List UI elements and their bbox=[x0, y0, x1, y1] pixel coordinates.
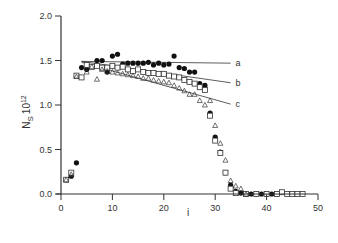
data-point bbox=[94, 58, 99, 63]
data-point bbox=[172, 83, 177, 88]
data-point bbox=[238, 186, 243, 191]
data-point bbox=[151, 77, 156, 82]
ticks bbox=[55, 16, 318, 200]
data-point bbox=[156, 71, 161, 76]
data-point bbox=[161, 71, 166, 76]
tick-labels: 010203040500.00.51.01.52.0 bbox=[39, 11, 323, 213]
data-point bbox=[171, 53, 176, 58]
chart: abc 010203040500.00.51.01.52.0 i NS1012 bbox=[0, 0, 338, 243]
data-point bbox=[228, 186, 233, 191]
data-point bbox=[115, 65, 120, 70]
data-point bbox=[151, 70, 156, 75]
data-point bbox=[223, 158, 228, 163]
data-point bbox=[192, 81, 197, 86]
line-labels: abc bbox=[236, 58, 241, 109]
data-point bbox=[177, 65, 182, 70]
data-point bbox=[192, 69, 197, 74]
data-point bbox=[100, 58, 105, 63]
data-point bbox=[182, 66, 187, 71]
data-points bbox=[64, 52, 305, 197]
data-point bbox=[166, 61, 171, 66]
data-point bbox=[151, 62, 156, 67]
data-point bbox=[233, 191, 238, 196]
data-point bbox=[115, 52, 120, 57]
data-point bbox=[125, 61, 130, 66]
x-tick-label: 40 bbox=[262, 203, 272, 213]
y-axis-label: NS1012 bbox=[20, 95, 35, 129]
data-point bbox=[161, 79, 166, 84]
data-point bbox=[202, 102, 207, 107]
y-tick-label: 2.0 bbox=[39, 11, 52, 21]
data-point bbox=[146, 60, 151, 65]
x-axis-label: i bbox=[187, 207, 189, 218]
x-tick-label: 20 bbox=[159, 203, 169, 213]
data-point bbox=[208, 113, 213, 118]
data-point bbox=[136, 67, 141, 72]
data-point bbox=[110, 53, 115, 58]
y-label-exp: 12 bbox=[20, 95, 27, 103]
data-point bbox=[202, 87, 207, 92]
data-point bbox=[94, 77, 99, 82]
series-open-square bbox=[64, 62, 305, 196]
series-open-triangle bbox=[64, 64, 249, 196]
axes bbox=[56, 16, 318, 194]
data-point bbox=[223, 170, 228, 175]
data-point bbox=[218, 151, 223, 156]
fit-line-label-c: c bbox=[236, 99, 241, 109]
data-point bbox=[156, 78, 161, 83]
x-tick-label: 10 bbox=[107, 203, 117, 213]
data-point bbox=[141, 70, 146, 75]
data-point bbox=[166, 73, 171, 78]
y-tick-label: 1.0 bbox=[39, 100, 52, 110]
data-point bbox=[74, 160, 79, 165]
data-point bbox=[172, 74, 177, 79]
data-point bbox=[146, 76, 151, 81]
data-point bbox=[136, 61, 141, 66]
data-point bbox=[146, 70, 151, 75]
y-label-sub: S bbox=[26, 116, 35, 121]
series-filled-circle bbox=[69, 52, 280, 197]
data-point bbox=[233, 183, 238, 188]
data-point bbox=[187, 79, 192, 84]
data-point bbox=[130, 61, 135, 66]
data-point bbox=[213, 123, 218, 128]
x-tick-label: 50 bbox=[313, 203, 323, 213]
data-point bbox=[213, 138, 218, 143]
data-point bbox=[156, 61, 161, 66]
fit-line-label-b: b bbox=[236, 78, 241, 88]
y-tick-label: 0.0 bbox=[39, 189, 52, 199]
y-tick-label: 0.5 bbox=[39, 145, 52, 155]
data-point bbox=[166, 80, 171, 85]
data-point bbox=[105, 65, 110, 70]
fit-line-label-a: a bbox=[236, 58, 241, 68]
y-label-ten: 10 bbox=[21, 103, 32, 115]
data-point bbox=[187, 69, 192, 74]
data-point bbox=[218, 141, 223, 146]
data-point bbox=[94, 63, 99, 68]
data-point bbox=[182, 78, 187, 83]
data-point bbox=[79, 75, 84, 80]
svg-text:NS1012: NS1012 bbox=[20, 95, 35, 129]
x-tick-label: 0 bbox=[58, 203, 63, 213]
x-tick-label: 30 bbox=[210, 203, 220, 213]
data-point bbox=[228, 178, 233, 183]
data-point bbox=[238, 191, 243, 196]
data-point bbox=[177, 75, 182, 80]
data-point bbox=[79, 65, 84, 70]
data-point bbox=[197, 98, 202, 103]
data-point bbox=[84, 62, 89, 67]
y-tick-label: 1.5 bbox=[39, 56, 52, 66]
data-point bbox=[161, 62, 166, 67]
data-point bbox=[110, 63, 115, 68]
data-point bbox=[125, 67, 130, 72]
data-point bbox=[197, 85, 202, 90]
data-point bbox=[141, 61, 146, 66]
data-point bbox=[120, 64, 125, 69]
y-label-n: N bbox=[21, 122, 32, 129]
